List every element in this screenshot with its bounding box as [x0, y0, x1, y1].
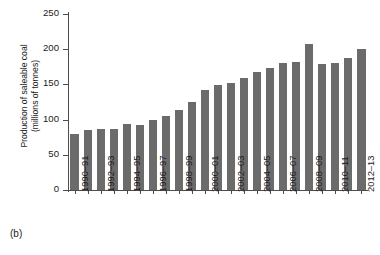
y-axis-tick-label: 250 — [43, 7, 59, 18]
bar — [201, 90, 209, 190]
x-axis-label: 2006–07 — [287, 156, 298, 193]
y-axis-line — [68, 12, 69, 192]
panel-tag: (b) — [10, 228, 22, 239]
y-axis-tick: 0 — [63, 190, 68, 191]
bar — [97, 129, 105, 190]
x-axis-label: 2002–03 — [235, 156, 246, 193]
y-axis-tick: 250 — [63, 14, 68, 15]
x-axis-label: 2012–13 — [365, 156, 376, 193]
y-axis-tick: 100 — [63, 120, 68, 121]
x-axis-label: 2010–11 — [339, 156, 350, 192]
x-axis-label: 2004–05 — [261, 156, 272, 193]
x-axis-labels: 1990–911992–931994–951996–971998–992000–… — [68, 192, 368, 250]
x-axis-label: 2000–01 — [209, 156, 220, 193]
y-axis-tick: 150 — [63, 84, 68, 85]
y-axis-tick-label: 150 — [43, 77, 59, 88]
x-axis-label: 1996–97 — [157, 156, 168, 193]
x-axis-label: 1998–99 — [183, 156, 194, 193]
x-axis-label: 1990–91 — [79, 156, 90, 193]
y-axis-tick-label: 0 — [54, 183, 59, 194]
bar — [149, 120, 157, 190]
y-axis-tick: 200 — [63, 49, 68, 50]
bar — [175, 110, 183, 190]
bar — [253, 72, 261, 190]
y-axis-title-line2: (millions of tonnes) — [30, 44, 41, 147]
y-axis-tick-label: 100 — [43, 113, 59, 124]
chart-figure: Production of saleable coal (millions of… — [0, 0, 380, 255]
x-axis-label: 1994–95 — [131, 156, 142, 193]
x-axis-label: 2008–09 — [313, 156, 324, 193]
y-axis-tick: 50 — [63, 155, 68, 156]
bar — [70, 134, 78, 190]
bar — [227, 83, 235, 190]
y-axis-title-line1: Production of saleable coal — [19, 44, 29, 147]
bar — [123, 124, 131, 190]
x-axis-label: 1992–93 — [105, 156, 116, 193]
y-axis-title: Production of saleable coal (millions of… — [10, 0, 50, 192]
y-axis-tick-label: 50 — [48, 148, 59, 159]
y-axis-tick-label: 200 — [43, 42, 59, 53]
